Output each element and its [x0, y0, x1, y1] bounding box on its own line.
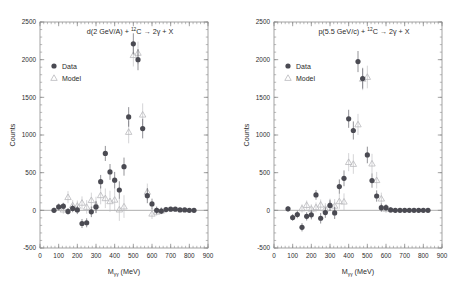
data-point	[61, 204, 66, 209]
data-point	[374, 193, 379, 198]
y-tick-label: 1500	[256, 94, 271, 101]
x-tick-label: 200	[72, 252, 83, 259]
data-point	[383, 205, 388, 210]
x-tick-label: 900	[437, 252, 448, 259]
x-tick-label: 600	[381, 252, 392, 259]
y-tick-label: 0	[32, 207, 36, 214]
data-point	[299, 225, 304, 230]
legend-model-marker	[51, 75, 57, 81]
y-tick-label: 1000	[256, 131, 271, 138]
data-point	[379, 205, 384, 210]
data-point	[416, 208, 421, 213]
series-model	[299, 66, 389, 215]
data-point	[411, 208, 416, 213]
data-point	[191, 208, 196, 213]
data-point	[182, 207, 187, 212]
data-point	[327, 203, 332, 208]
y-tick-label: 2500	[22, 18, 37, 25]
data-point	[309, 212, 314, 217]
y-tick-label: 2000	[256, 56, 271, 63]
data-point	[173, 207, 178, 212]
x-tick-label: 600	[147, 252, 158, 259]
data-point	[369, 178, 374, 183]
title-pre: p(5.5 GeV/c) +	[318, 27, 367, 36]
legend-data-marker	[285, 63, 290, 68]
data-point	[56, 204, 61, 209]
y-axis-label: Counts	[8, 123, 17, 146]
legend-data-marker	[51, 63, 56, 68]
y-axis-label: Counts	[242, 123, 251, 146]
data-point	[121, 164, 126, 169]
data-point	[145, 193, 150, 198]
data-point	[131, 41, 136, 46]
legend: DataModel	[51, 63, 82, 82]
plot-title: p(5.5 GeV/c) + 12C → 2γ + X	[318, 27, 409, 36]
y-tick-label: 500	[259, 169, 270, 176]
data-point	[421, 208, 426, 213]
x-axis-label: Mγγ (MeV)	[342, 267, 374, 277]
data-point	[346, 116, 351, 121]
data-point	[107, 169, 112, 174]
data-point	[89, 209, 94, 214]
data-point	[393, 208, 398, 213]
data-point	[304, 214, 309, 219]
data-point	[337, 184, 342, 189]
data-point	[140, 126, 145, 131]
data-point	[425, 208, 430, 213]
y-tick-label: -500	[257, 244, 270, 251]
legend-model-label: Model	[62, 75, 82, 82]
data-point	[187, 208, 192, 213]
data-point	[93, 204, 98, 209]
data-point	[295, 212, 300, 217]
x-tick-label: 200	[306, 252, 317, 259]
legend-data-label: Data	[296, 63, 311, 70]
legend-model-marker	[285, 75, 291, 81]
panel-right: 0100200300400500600700800900-50005001000…	[234, 0, 467, 286]
title-pre: d(2 GeV/A) +	[87, 27, 131, 36]
data-point	[341, 176, 346, 181]
plot-right: 0100200300400500600700800900-50005001000…	[234, 0, 467, 286]
x-tick-label: 500	[128, 252, 139, 259]
data-point	[397, 208, 402, 213]
x-label-unit: (MeV)	[119, 267, 141, 276]
x-tick-label: 800	[184, 252, 195, 259]
x-tick-label: 900	[203, 252, 214, 259]
data-point	[65, 209, 70, 214]
y-tick-label: 2000	[22, 56, 37, 63]
legend-data-label: Data	[62, 63, 77, 70]
data-point	[168, 207, 173, 212]
plot-left: 0100200300400500600700800900-50005001000…	[0, 0, 233, 286]
title-mid: C → 2γ + X	[373, 27, 410, 36]
x-tick-label: 100	[287, 252, 298, 259]
data-point	[70, 206, 75, 211]
legend: DataModel	[285, 63, 316, 82]
x-tick-label: 700	[165, 252, 176, 259]
data-point	[103, 151, 108, 156]
data-point	[117, 187, 122, 192]
data-point	[51, 208, 56, 213]
data-point	[323, 210, 328, 215]
data-point	[149, 201, 154, 206]
x-tick-label: 0	[38, 252, 42, 259]
data-point	[290, 215, 295, 220]
y-tick-label: 0	[266, 207, 270, 214]
data-point	[84, 220, 89, 225]
data-point	[285, 206, 290, 211]
x-tick-label: 0	[272, 252, 276, 259]
title-mid: C → 2γ + X	[136, 27, 173, 36]
data-point	[79, 221, 84, 226]
x-tick-label: 700	[399, 252, 410, 259]
y-tick-label: 500	[25, 169, 36, 176]
data-point	[163, 207, 168, 212]
x-axis-label: Mγγ (MeV)	[108, 267, 140, 277]
data-point	[126, 114, 131, 119]
data-point	[177, 207, 182, 212]
x-tick-label: 800	[418, 252, 429, 259]
legend-model-label: Model	[296, 75, 316, 82]
data-point	[112, 178, 117, 183]
panel-left: 0100200300400500600700800900-50005001000…	[0, 0, 233, 286]
data-point	[332, 210, 337, 215]
data-point	[154, 208, 159, 213]
data-point	[355, 59, 360, 64]
data-point	[351, 128, 356, 133]
